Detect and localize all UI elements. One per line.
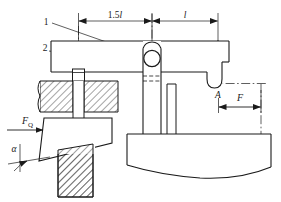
lever-nose-arc: [207, 79, 222, 88]
inner-post-fill: [167, 84, 176, 134]
dimension-label-l: l: [184, 10, 187, 20]
point-a-group: A: [214, 90, 221, 100]
dimension-label-1-5l: 1.5l: [108, 10, 123, 20]
fixture-block-right: [84, 81, 118, 112]
force-label-f: F: [236, 92, 244, 103]
fixture-block-left: [40, 81, 73, 112]
inner-post: [167, 84, 176, 134]
mechanism-diagram: 1.5l l 1 2: [0, 0, 281, 202]
pivot-hole: [144, 50, 160, 66]
lower-column: [56, 140, 95, 197]
point-label-a: A: [214, 90, 221, 100]
lower-column-clipped: [58, 144, 93, 197]
clamp-pad-body: [73, 69, 85, 81]
pivot-assembly: [143, 41, 161, 72]
vertical-post: [143, 72, 161, 134]
part-label-1: 1: [44, 17, 49, 27]
part-label-2: 2: [43, 43, 48, 53]
clamp-pad: [73, 69, 85, 81]
technical-drawing-canvas: 1.5l l 1 2: [0, 0, 281, 202]
